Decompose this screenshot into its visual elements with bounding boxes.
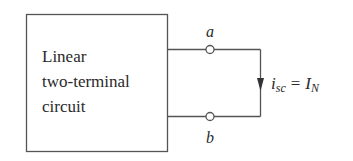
- block-label-line-2: two-terminal: [42, 72, 130, 91]
- terminal-a-label: a: [206, 23, 214, 40]
- block-label-line-1: Linear: [42, 47, 87, 66]
- current-arrow-down-icon: [257, 78, 264, 91]
- block-label-line-3: circuit: [42, 97, 86, 116]
- current-var-sub: sc: [276, 81, 287, 95]
- terminal-a-icon: [206, 46, 214, 54]
- current-label: isc=IN: [271, 74, 320, 95]
- terminal-b-icon: [206, 113, 214, 121]
- equals-sign: =: [291, 74, 301, 93]
- norton-current-sub: N: [310, 81, 320, 95]
- norton-short-circuit-diagram: Linear two-terminal circuit a b isc=IN: [0, 0, 353, 161]
- terminal-b-label: b: [206, 129, 214, 146]
